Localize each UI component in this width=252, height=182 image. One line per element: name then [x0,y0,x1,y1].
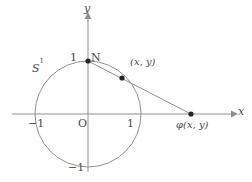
unit-circle-label: S1 [32,62,44,74]
y-axis-label: y [84,3,90,14]
x-tick-label-one: 1 [127,118,134,129]
x-tick-label-minus-one: −1 [28,118,44,129]
projection-ray [88,61,191,114]
stereographic-projection-figure: y x 1 −1 1 −1 O N S1 (x, y) φ(x, y) [0,0,252,182]
point-on-circle-point [119,75,124,80]
unit-circle-label-base: S [32,62,40,75]
north-pole-point [85,58,90,63]
projected-point [188,111,193,116]
figure-canvas [0,0,252,182]
north-pole-label: N [91,52,101,63]
unit-circle-label-exponent: 1 [40,57,44,65]
y-tick-label-one: 1 [70,52,77,63]
x-axis-arrowhead [231,111,238,118]
origin-label: O [78,118,87,129]
projected-point-label: φ(x, y) [176,120,208,130]
x-axis-label: x [238,106,244,117]
y-tick-label-minus-one: −1 [68,162,84,173]
point-on-circle-label: (x, y) [130,57,155,67]
